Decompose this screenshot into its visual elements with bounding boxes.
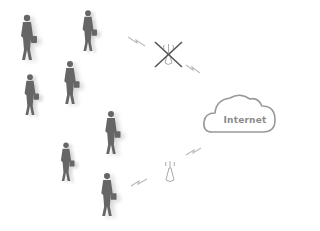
- lightning-icon: [186, 148, 201, 155]
- lightning-icon: [186, 65, 200, 73]
- access-point-active: [166, 161, 175, 182]
- internet-cloud: [204, 95, 275, 132]
- person-icon: [83, 10, 101, 52]
- person-icon: [64, 61, 83, 106]
- person-icon: [101, 173, 120, 218]
- person-icon: [105, 111, 124, 156]
- access-point-disabled: [155, 42, 182, 67]
- people-group: [21, 10, 124, 218]
- person-icon: [21, 15, 41, 62]
- lightning-icon: [131, 179, 147, 186]
- person-icon: [25, 74, 43, 116]
- person-icon: [61, 143, 78, 183]
- wifi-access-point-icon: [166, 168, 174, 182]
- cloud-icon: [204, 95, 275, 132]
- lightning-links: [128, 37, 201, 186]
- lightning-icon: [128, 37, 145, 46]
- internet-label: Internet: [205, 115, 285, 125]
